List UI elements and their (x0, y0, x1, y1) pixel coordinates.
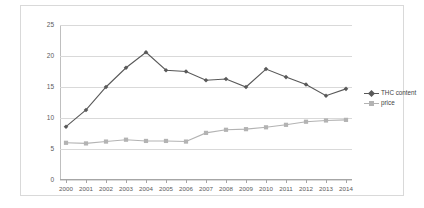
data-point-price-2003 (124, 138, 128, 142)
chart-frame: 0510152025 20002001200220032004200520062… (20, 5, 404, 196)
y-tick-label-5: 5 (21, 145, 54, 152)
legend-item-price: price (364, 98, 416, 108)
x-tickmark-2002 (106, 180, 107, 183)
x-tickmark-2010 (266, 180, 267, 183)
data-point-thc-content-2012 (304, 82, 309, 87)
y-tick-label-10: 10 (21, 114, 54, 121)
data-point-thc-content-2008 (224, 77, 229, 82)
series-lines (60, 25, 352, 180)
x-tickmark-2013 (326, 180, 327, 183)
legend-marker-diamond-icon (364, 89, 379, 97)
data-point-thc-content-2011 (284, 75, 289, 80)
data-point-price-2000 (64, 141, 68, 145)
legend-marker-square-icon (364, 99, 379, 107)
x-tickmark-2008 (226, 180, 227, 183)
data-point-thc-content-2014 (344, 87, 349, 92)
plot-area (60, 25, 352, 180)
data-point-price-2006 (184, 139, 188, 143)
y-tick-label-0: 0 (21, 176, 54, 183)
data-point-thc-content-2006 (184, 69, 189, 74)
series-line-thc-content (66, 52, 346, 126)
y-tick-label-20: 20 (21, 52, 54, 59)
data-point-thc-content-2013 (324, 93, 329, 98)
x-tick-label-2014: 2014 (333, 185, 359, 192)
data-point-thc-content-2007 (204, 78, 209, 83)
data-point-price-2011 (284, 123, 288, 127)
data-point-price-2008 (224, 128, 228, 132)
legend-label-thc-content: THC content (381, 88, 416, 98)
chart-legend: THC content price (364, 88, 416, 108)
y-tick-label-15: 15 (21, 83, 54, 90)
data-point-price-2007 (204, 131, 208, 135)
data-point-price-2012 (304, 120, 308, 124)
data-point-price-2010 (264, 125, 268, 129)
data-point-price-2013 (324, 118, 328, 122)
data-point-price-2002 (104, 139, 108, 143)
data-point-price-2001 (84, 141, 88, 145)
x-tickmark-2006 (186, 180, 187, 183)
x-tickmark-2001 (86, 180, 87, 183)
x-tickmark-2004 (146, 180, 147, 183)
legend-label-price: price (381, 98, 395, 108)
x-tickmark-2000 (66, 180, 67, 183)
data-point-price-2014 (344, 118, 348, 122)
data-point-price-2005 (164, 139, 168, 143)
x-tickmark-2007 (206, 180, 207, 183)
x-tickmark-2011 (286, 180, 287, 183)
data-point-price-2009 (244, 127, 248, 131)
x-tickmark-2009 (246, 180, 247, 183)
x-tickmark-2012 (306, 180, 307, 183)
legend-item-thc-content: THC content (364, 88, 416, 98)
x-tickmark-2003 (126, 180, 127, 183)
y-tick-label-25: 25 (21, 21, 54, 28)
data-point-price-2004 (144, 139, 148, 143)
x-tickmark-2014 (346, 180, 347, 183)
x-tickmark-2005 (166, 180, 167, 183)
